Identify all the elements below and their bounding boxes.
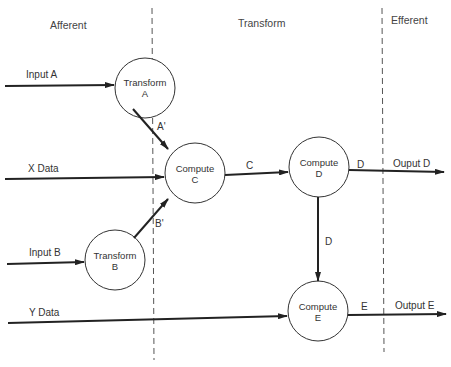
- edge-d-right: [349, 170, 444, 172]
- node-label-compute-e: Compute E: [288, 301, 348, 323]
- region-label-transform: Transform: [238, 18, 285, 29]
- edge-label-d-down: D: [325, 236, 332, 247]
- edge-label-a-prime: A': [157, 121, 166, 132]
- node-label-compute-c: Compute C: [165, 163, 225, 185]
- node-label-transform-a: Transform A: [115, 77, 175, 99]
- edge-label-output-d: Ouput D: [393, 158, 430, 169]
- edge-label-d-right: D: [357, 159, 364, 170]
- node-label-transform-b: Transform B: [85, 250, 145, 272]
- edge-input-b: [7, 262, 84, 264]
- edge-label-input-b: Input B: [29, 247, 61, 258]
- edge-label-e: E: [361, 301, 368, 312]
- edge-input-a: [5, 85, 114, 86]
- region-label-efferent: Efferent: [391, 15, 428, 26]
- edge-label-output-e: Output E: [395, 300, 434, 311]
- edge-c: [225, 172, 288, 175]
- edge-label-b-prime: B': [155, 218, 164, 229]
- region-label-afferent: Afferent: [50, 20, 87, 31]
- diagram-canvas: [0, 0, 451, 367]
- edge-e: [348, 314, 446, 315]
- edge-label-input-a: Input A: [26, 69, 57, 80]
- edge-x-data: [5, 177, 164, 179]
- edge-label-c: C: [246, 160, 253, 171]
- transform-efferent-boundary: [382, 8, 384, 352]
- edge-label-x-data: X Data: [28, 163, 59, 174]
- edge-label-y-data: Y Data: [29, 307, 59, 318]
- node-label-compute-d: Compute D: [289, 157, 349, 179]
